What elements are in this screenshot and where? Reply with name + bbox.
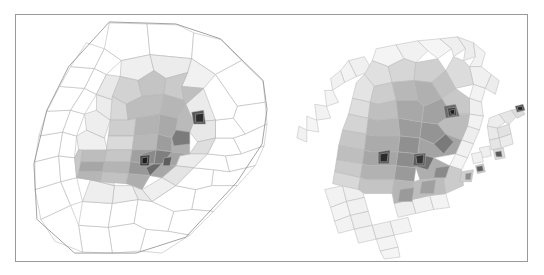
figure-root: map-figure [0, 0, 544, 275]
midtone-tracts [333, 57, 474, 204]
tract-layer [297, 37, 525, 259]
county-subdivision-layer [35, 23, 267, 253]
county-extent-map[interactable] [16, 15, 284, 261]
figure-frame [15, 14, 528, 262]
map-panel-left[interactable] [16, 15, 284, 261]
urbanized-tracts-map[interactable] [284, 15, 529, 261]
map-panel-right[interactable] [284, 15, 529, 261]
